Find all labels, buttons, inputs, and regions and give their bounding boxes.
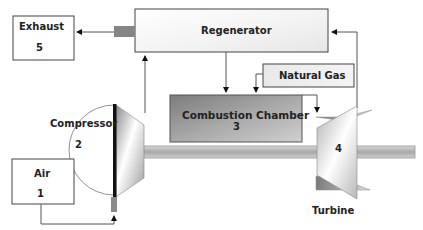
turbine-number: 4 xyxy=(335,143,342,154)
turbine-label: Turbine xyxy=(312,205,354,216)
exhaust-label: Exhaust xyxy=(19,21,64,32)
compressor-inlet xyxy=(111,197,117,212)
air-label: Air xyxy=(34,168,50,179)
compressor-label: Compressor xyxy=(50,118,117,129)
combustion-chamber-number: 3 xyxy=(233,121,240,132)
regenerator-exhaust-port xyxy=(114,26,135,37)
flow-natural-gas-to-chamber xyxy=(256,74,263,92)
shaft xyxy=(143,146,415,158)
flow-air-to-compressor xyxy=(41,204,114,224)
exhaust-number: 5 xyxy=(36,42,43,53)
natural-gas-label: Natural Gas xyxy=(279,70,346,81)
air-number: 1 xyxy=(37,188,44,199)
regenerator-label: Regenerator xyxy=(201,25,272,36)
compressor-number: 2 xyxy=(75,139,82,150)
combustion-chamber-label: Combustion Chamber xyxy=(182,109,309,121)
compressor-rotor xyxy=(116,105,144,197)
